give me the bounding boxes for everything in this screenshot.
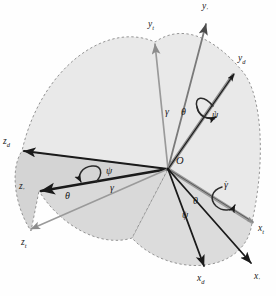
- axis-label-z-d: zd: [3, 137, 10, 148]
- angle-label-theta-upper: θ: [181, 107, 186, 117]
- axis-label-x-d: xd: [197, 274, 204, 285]
- angle-label-gamma-upper: γ: [165, 107, 169, 117]
- axis-label-z-t: zt: [21, 238, 27, 249]
- axis-label-y-d: yd: [238, 54, 245, 65]
- angle-label-psi-dot-right: ·ψ: [212, 110, 218, 120]
- angle-label-psi-lower: ψ: [182, 210, 188, 220]
- axis-label-x-t: xt: [258, 224, 264, 235]
- angle-label-theta-dot-left: ·θ: [65, 191, 70, 201]
- axis-label-y-prime: y': [202, 2, 208, 13]
- diagram-canvas: [0, 0, 276, 296]
- axis-label-x-prime: x': [254, 272, 260, 283]
- origin-point: [166, 167, 169, 170]
- angle-label-gamma-left: γ: [110, 183, 114, 193]
- axis-label-y-t: yt: [148, 20, 154, 31]
- euler-angle-diagram: yt y' yd zd z' zt xt xd x' O γ θ ·ψ ψ γ …: [0, 0, 276, 296]
- angle-label-psi-left: ψ: [106, 166, 112, 176]
- origin-label: O: [176, 156, 184, 167]
- axis-label-z-prime: z': [19, 182, 24, 193]
- angle-label-theta-lower: θ: [193, 196, 198, 206]
- angle-label-gamma-dot-right: ·γ: [224, 180, 228, 190]
